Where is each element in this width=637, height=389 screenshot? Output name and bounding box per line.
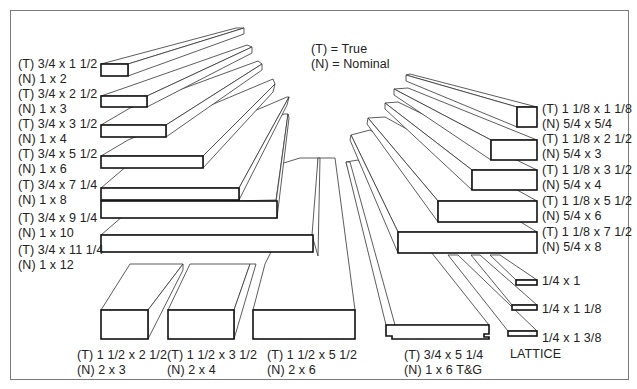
- true-size: (T) 1 1/8 x 7 1/2: [542, 225, 632, 240]
- label-2x4: (T) 1 1/2 x 3 1/2 (N) 2 x 4: [167, 348, 257, 378]
- true-size: (T) 1 1/8 x 1 1/8: [542, 102, 632, 117]
- nominal-size: (N) 1 x 3: [18, 102, 97, 117]
- board-1x2: [101, 28, 244, 76]
- true-size: (T) 3/4 x 5 1/4: [404, 348, 483, 363]
- label-1x6: (T) 3/4 x 5 1/2 (N) 1 x 6: [18, 147, 97, 177]
- nominal-size: (N) 1 x 6: [18, 162, 97, 177]
- nominal-size: (N) 1 x 8: [18, 193, 97, 208]
- true-size: (T) 1 1/8 x 2 1/2: [542, 132, 632, 147]
- label-1x2: (T) 3/4 x 1 1/2 (N) 1 x 2: [18, 57, 97, 87]
- label-5-4x8: (T) 1 1/8 x 7 1/2 (N) 5/4 x 8: [542, 225, 632, 255]
- nominal-size: (N) 2 x 3: [77, 363, 167, 378]
- true-size: (T) 1 1/2 x 2 1/2: [77, 348, 167, 363]
- label-5-4x3: (T) 1 1/8 x 2 1/2 (N) 5/4 x 3: [542, 132, 632, 162]
- true-size: (T) 3/4 x 11 1/4: [18, 243, 103, 258]
- nominal-size: (N) 5/4 x 3: [542, 147, 632, 162]
- true-size: (T) 3/4 x 9 1/4: [18, 211, 97, 226]
- true-size: (T) 1 1/8 x 5 1/2: [542, 194, 632, 209]
- nominal-size: (N) 5/4 x 6: [542, 209, 632, 224]
- true-size: (T) 3/4 x 7 1/4: [18, 178, 97, 193]
- legend-nominal: (N) = Nominal: [311, 57, 390, 72]
- label-lattice-title: LATTICE: [510, 347, 561, 362]
- nominal-size: (N) 5/4 x 5/4: [542, 117, 632, 132]
- true-size: (T) 1 1/2 x 5 1/2: [267, 348, 357, 363]
- nominal-size: (N) 1 x 12: [18, 258, 103, 273]
- nominal-size: (N) 5/4 x 4: [542, 178, 632, 193]
- label-lattice-1-4x1: 1/4 x 1: [542, 274, 580, 289]
- label-5-4x5-4: (T) 1 1/8 x 1 1/8 (N) 5/4 x 5/4: [542, 102, 632, 132]
- label-1x3: (T) 3/4 x 2 1/2 (N) 1 x 3: [18, 87, 97, 117]
- label-2x3: (T) 1 1/2 x 2 1/2 (N) 2 x 3: [77, 348, 167, 378]
- nominal-size: (N) 1 x 2: [18, 72, 97, 87]
- label-lattice-1-4x1-3-8: 1/4 x 1 3/8: [542, 331, 601, 346]
- label-1x12: (T) 3/4 x 11 1/4 (N) 1 x 12: [18, 243, 103, 273]
- true-size: (T) 3/4 x 2 1/2: [18, 87, 97, 102]
- label-1x10: (T) 3/4 x 9 1/4 (N) 1 x 10: [18, 211, 97, 241]
- legend-true: (T) = True: [311, 42, 390, 57]
- label-5-4x4: (T) 1 1/8 x 3 1/2 (N) 5/4 x 4: [542, 163, 632, 193]
- true-size: (T) 1 1/8 x 3 1/2: [542, 163, 632, 178]
- legend: (T) = True (N) = Nominal: [311, 42, 390, 72]
- nominal-size: (N) 1 x 10: [18, 226, 97, 241]
- label-lattice-1-4x1-1-8: 1/4 x 1 1/8: [542, 302, 601, 317]
- label-2x6: (T) 1 1/2 x 5 1/2 (N) 2 x 6: [267, 348, 357, 378]
- label-1x4: (T) 3/4 x 3 1/2 (N) 1 x 4: [18, 117, 97, 147]
- true-size: (T) 3/4 x 1 1/2: [18, 57, 97, 72]
- nominal-size: (N) 1 x 4: [18, 132, 97, 147]
- nominal-size: (N) 2 x 4: [167, 363, 257, 378]
- label-1x6-tg: (T) 3/4 x 5 1/4 (N) 1 x 6 T&G: [404, 348, 483, 378]
- label-5-4x6: (T) 1 1/8 x 5 1/2 (N) 5/4 x 6: [542, 194, 632, 224]
- nominal-size: (N) 5/4 x 8: [542, 240, 632, 255]
- board-2x4: [168, 264, 256, 339]
- true-size: (T) 3/4 x 3 1/2: [18, 117, 97, 132]
- nominal-size: (N) 1 x 6 T&G: [404, 363, 483, 378]
- nominal-size: (N) 2 x 6: [267, 363, 357, 378]
- label-1x8: (T) 3/4 x 7 1/4 (N) 1 x 8: [18, 178, 97, 208]
- true-size: (T) 1 1/2 x 3 1/2: [167, 348, 257, 363]
- true-size: (T) 3/4 x 5 1/2: [18, 147, 97, 162]
